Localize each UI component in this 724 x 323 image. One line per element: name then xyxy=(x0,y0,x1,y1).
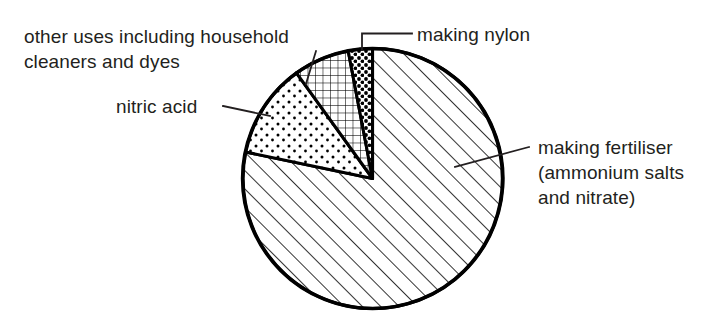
pie-label-making-fertiliser: making fertiliser (ammonium salts and ni… xyxy=(538,135,724,210)
pie-chart-figure: other uses including household cleaners … xyxy=(0,0,724,323)
pie-label-making-nylon: making nylon xyxy=(417,22,617,47)
pie-label-nitric-acid: nitric acid xyxy=(116,94,226,119)
pie-label-other-uses: other uses including household cleaners … xyxy=(24,24,354,74)
